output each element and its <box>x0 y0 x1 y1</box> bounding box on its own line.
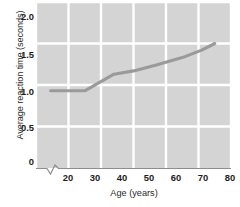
chart-canvas <box>0 0 240 207</box>
chart-figure: Average reaction time (seconds) Age (yea… <box>0 0 240 207</box>
